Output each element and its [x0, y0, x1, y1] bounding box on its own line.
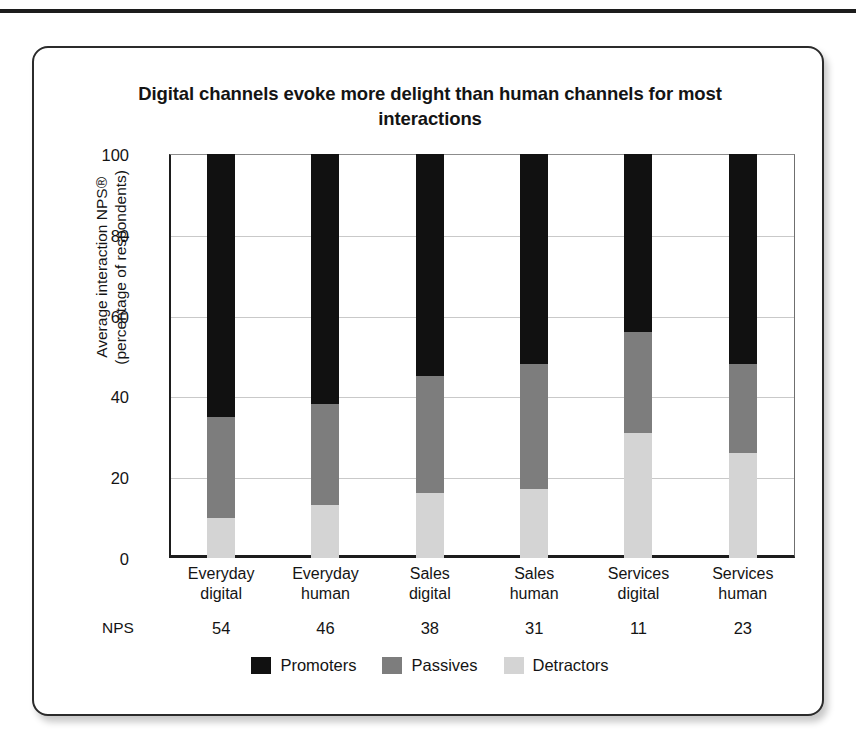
legend-swatch-icon [251, 657, 271, 674]
bar-slot [586, 154, 690, 558]
legend-item[interactable]: Passives [382, 656, 477, 675]
chart-legend: PromotersPassivesDetractors [34, 656, 826, 675]
y-axis-tick-label: 20 [69, 469, 129, 488]
stacked-bar[interactable] [207, 154, 235, 558]
x-axis-category-label: Everydaydigital [169, 564, 273, 605]
y-axis-tick-label: 60 [69, 307, 129, 326]
bar-segment-passives[interactable] [520, 364, 548, 489]
bar-segment-promoters[interactable] [729, 154, 757, 364]
nps-value: 38 [378, 619, 482, 638]
category-label-line: Services [691, 564, 795, 584]
category-label-line: human [482, 584, 586, 604]
bar-segment-passives[interactable] [416, 376, 444, 493]
bar-segment-detractors[interactable] [520, 489, 548, 558]
category-label-line: Sales [378, 564, 482, 584]
legend-swatch-icon [382, 657, 402, 674]
bar-slot [169, 154, 273, 558]
bar-segment-promoters[interactable] [311, 154, 339, 404]
bar-slot [482, 154, 586, 558]
plot-wrapper: Average interaction NPS® (percentage of … [34, 48, 826, 718]
category-label-line: Sales [482, 564, 586, 584]
category-label-line: Services [586, 564, 690, 584]
nps-value: 11 [586, 619, 690, 638]
bar-segment-promoters[interactable] [624, 154, 652, 332]
category-label-line: human [273, 584, 377, 604]
page-top-rule [0, 9, 856, 13]
category-label-line: Everyday [273, 564, 377, 584]
y-axis-title-line1: Average interaction NPS® [92, 65, 111, 469]
bar-segment-promoters[interactable] [416, 154, 444, 376]
bar-segment-detractors[interactable] [311, 505, 339, 558]
category-label-line: digital [169, 584, 273, 604]
category-label-line: digital [586, 584, 690, 604]
bar-segment-passives[interactable] [624, 332, 652, 433]
nps-value: 54 [169, 619, 273, 638]
x-axis-category-label: Servicesdigital [586, 564, 690, 605]
y-axis-tick-label: 100 [69, 146, 129, 165]
x-axis-category-label: Salesdigital [378, 564, 482, 605]
bar-segment-passives[interactable] [207, 417, 235, 518]
y-axis-title: Average interaction NPS® (percentage of … [92, 65, 131, 469]
bar-segment-promoters[interactable] [207, 154, 235, 417]
bar-segment-detractors[interactable] [207, 518, 235, 558]
bar-segment-detractors[interactable] [416, 493, 444, 558]
x-axis-category-label: Serviceshuman [691, 564, 795, 605]
nps-value-row: 544638311123 [169, 619, 795, 638]
stacked-bar[interactable] [624, 154, 652, 558]
x-axis-category-label: Saleshuman [482, 564, 586, 605]
legend-item[interactable]: Detractors [504, 656, 609, 675]
legend-label: Detractors [533, 656, 609, 675]
nps-value: 23 [691, 619, 795, 638]
legend-label: Promoters [280, 656, 356, 675]
bar-slot [691, 154, 795, 558]
x-axis-category-label: Everydayhuman [273, 564, 377, 605]
nps-value: 31 [482, 619, 586, 638]
legend-item[interactable]: Promoters [251, 656, 356, 675]
category-label-line: digital [378, 584, 482, 604]
chart-card: Digital channels evoke more delight than… [32, 46, 824, 716]
y-axis-title-line2: (percentage of respondents) [111, 65, 130, 469]
bar-segment-promoters[interactable] [520, 154, 548, 364]
y-axis-tick-label: 40 [69, 388, 129, 407]
stacked-bar[interactable] [520, 154, 548, 558]
legend-swatch-icon [504, 657, 524, 674]
bar-slot [378, 154, 482, 558]
y-axis-tick-label: 80 [69, 226, 129, 245]
category-label-line: human [691, 584, 795, 604]
bar-segment-passives[interactable] [729, 364, 757, 453]
legend-label: Passives [411, 656, 477, 675]
y-axis-tick-label: 0 [69, 550, 129, 569]
bar-segment-passives[interactable] [311, 404, 339, 505]
bar-segment-detractors[interactable] [729, 453, 757, 558]
category-label-line: Everyday [169, 564, 273, 584]
bar-group [169, 154, 795, 558]
bar-segment-detractors[interactable] [624, 433, 652, 558]
nps-row-label: NPS [102, 619, 164, 637]
stacked-bar[interactable] [416, 154, 444, 558]
nps-value: 46 [273, 619, 377, 638]
x-axis-category-labels: EverydaydigitalEverydayhumanSalesdigital… [169, 564, 795, 605]
stacked-bar[interactable] [729, 154, 757, 558]
stacked-bar[interactable] [311, 154, 339, 558]
bar-slot [273, 154, 377, 558]
